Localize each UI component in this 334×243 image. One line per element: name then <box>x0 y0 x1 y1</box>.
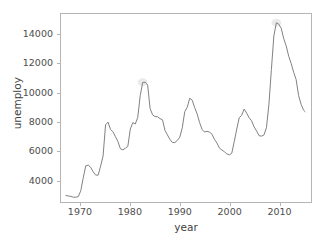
y-tick-label: 12000 <box>23 58 53 68</box>
y-tick-labels: 400060008000100001200014000 <box>0 13 53 203</box>
x-tick-label: 2000 <box>218 207 242 217</box>
figure: 400060008000100001200014000 197019801990… <box>0 0 334 243</box>
x-tick-label: 1970 <box>68 207 92 217</box>
y-tick-label: 8000 <box>29 117 53 127</box>
y-tick-label: 10000 <box>23 88 53 98</box>
x-tick-label: 1980 <box>118 207 142 217</box>
plot-area <box>60 13 312 203</box>
x-tick-label: 2010 <box>267 207 291 217</box>
x-tick-label: 1990 <box>168 207 192 217</box>
unemploy-line <box>66 23 305 197</box>
x-axis-label: year <box>60 222 312 233</box>
x-tick-labels: 19701980199020002010 <box>60 207 312 221</box>
confidence-band <box>138 19 282 86</box>
line-chart-svg <box>61 14 311 202</box>
y-tick-label: 4000 <box>29 176 53 186</box>
y-tick-label: 6000 <box>29 147 53 157</box>
y-tick-label: 14000 <box>23 29 53 39</box>
y-axis-label: unemploy <box>12 53 23 153</box>
